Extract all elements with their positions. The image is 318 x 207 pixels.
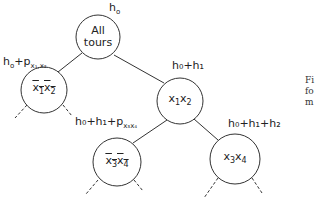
stub-rr-left [204, 178, 218, 198]
caption-line-2: fo [305, 86, 314, 97]
node-right-label: x1x2 [160, 93, 200, 109]
edge-root-left [58, 53, 82, 72]
node-left-label: x1x2 [24, 82, 64, 98]
right-bound-label: h₀+h₁ [172, 60, 204, 71]
root-line2: tours [78, 37, 118, 49]
edge-right-rightright [194, 119, 218, 140]
edge-root-right [114, 55, 164, 83]
stub-rl-right [134, 180, 143, 191]
left-bound-label: ho+px₁,x₂ [3, 56, 47, 70]
stub-left-right [63, 105, 72, 116]
node-right-right-label: x3x4 [215, 151, 255, 167]
caption-line-1: Fi [305, 75, 314, 86]
caption-line-3: m [305, 97, 314, 108]
root-bound-label: ho [109, 2, 120, 16]
node-right-left-label: x3x4 [97, 155, 137, 171]
right-left-bound-label: h₀+h₁+px₃x₄ [75, 116, 137, 130]
tree-diagram [0, 0, 318, 207]
stub-left-left [15, 105, 27, 118]
node-root-label: All tours [78, 25, 118, 49]
right-right-bound-label: h₀+h₁+h₂ [228, 118, 281, 129]
edge-right-rightleft [133, 120, 167, 143]
stub-rr-right [252, 178, 262, 193]
figure-caption-fragment: Fi fo m [305, 75, 314, 108]
stub-rl-left [86, 180, 98, 194]
